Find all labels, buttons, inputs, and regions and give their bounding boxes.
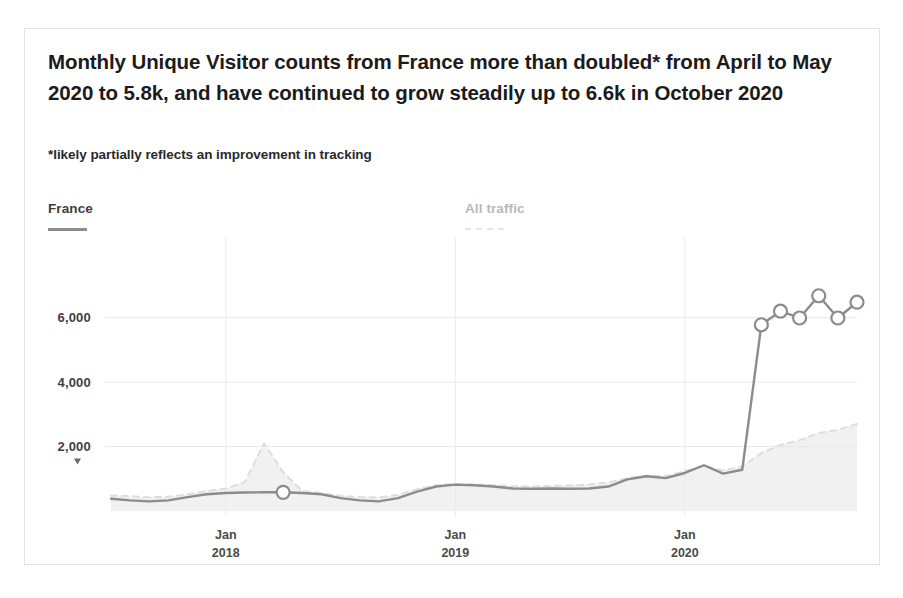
grid-lines — [105, 318, 857, 447]
legend-item-france-label: France — [48, 201, 93, 216]
x-axis-labels: Jan2018Jan2019Jan2020 — [212, 528, 699, 560]
svg-text:2020: 2020 — [671, 546, 699, 560]
svg-text:4,000: 4,000 — [57, 375, 91, 390]
legend-item-all-traffic-label: All traffic — [465, 201, 525, 216]
svg-text:Jan: Jan — [674, 528, 696, 542]
svg-text:Jan: Jan — [215, 528, 237, 542]
svg-text:6,000: 6,000 — [57, 310, 91, 325]
legend-item-all-traffic[interactable]: All traffic — [465, 201, 525, 230]
svg-text:2,000: 2,000 — [57, 439, 91, 454]
legend-swatch-all-traffic-icon — [465, 228, 504, 230]
france-line — [111, 296, 857, 502]
page-title: Monthly Unique Visitor counts from Franc… — [48, 46, 848, 108]
all-traffic-band — [111, 424, 857, 511]
all-traffic-line — [111, 424, 857, 497]
screenshot-root: Monthly Unique Visitor counts from Franc… — [0, 0, 903, 598]
line-chart: 2,0004,0006,000 Jan2018Jan2019Jan2020 — [25, 29, 881, 566]
france-markers — [277, 289, 864, 499]
chart-card: Monthly Unique Visitor counts from Franc… — [24, 28, 880, 565]
chart-footnote: *likely partially reflects an improvemen… — [48, 147, 808, 162]
x-grid-lines — [226, 237, 685, 517]
legend-swatch-france-icon — [48, 228, 87, 231]
y-axis-labels: 2,0004,0006,000 — [57, 310, 91, 464]
svg-text:2019: 2019 — [441, 546, 469, 560]
svg-text:2018: 2018 — [212, 546, 240, 560]
legend-item-france[interactable]: France — [48, 201, 93, 231]
chart-plot-area: 2,0004,0006,000 Jan2018Jan2019Jan2020 — [25, 29, 881, 566]
svg-text:Jan: Jan — [445, 528, 467, 542]
